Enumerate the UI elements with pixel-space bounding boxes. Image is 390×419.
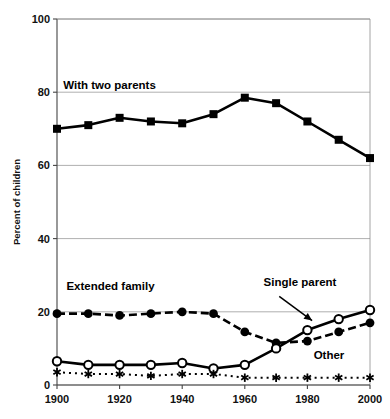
data-point (84, 121, 92, 129)
data-point (209, 309, 218, 318)
data-point (334, 328, 343, 337)
y-axis-title: Percent of children (11, 159, 22, 245)
data-point (178, 307, 187, 316)
x-tick-label-1940: 1940 (170, 393, 194, 405)
x-tick-label-1900: 1900 (45, 393, 69, 405)
data-point (53, 368, 60, 376)
data-point (241, 94, 249, 102)
data-point (147, 361, 155, 369)
data-point (116, 114, 124, 122)
x-tick-label-2000: 2000 (358, 393, 382, 405)
x-tick-label-1960: 1960 (233, 393, 257, 405)
data-point (178, 359, 186, 367)
series-with-two-parents (53, 94, 374, 162)
y-tick-label-80: 80 (38, 86, 50, 98)
single-parent-arrowhead (304, 313, 313, 321)
y-tick-label-60: 60 (38, 159, 50, 171)
x-tick-label-1920: 1920 (107, 393, 131, 405)
series-extended-family (53, 307, 375, 347)
annotation-with-two-parents: With two parents (63, 79, 156, 91)
data-point (335, 373, 342, 381)
data-point (303, 326, 311, 334)
data-point (335, 315, 343, 323)
data-point (115, 311, 124, 320)
data-point (241, 361, 249, 369)
data-point (366, 154, 374, 162)
data-point (210, 110, 218, 118)
data-point (147, 117, 155, 125)
data-point (84, 361, 92, 369)
data-point (178, 119, 186, 127)
x-tick-label-1980: 1980 (295, 393, 319, 405)
data-point (303, 337, 312, 346)
y-tick-label-0: 0 (44, 379, 50, 391)
data-point (84, 309, 93, 318)
data-point (53, 125, 61, 133)
data-point (147, 309, 156, 318)
series-line (57, 98, 370, 158)
data-point (366, 306, 374, 314)
data-point (240, 328, 249, 337)
series-other (53, 368, 373, 382)
percent-of-children-line-chart: 020406080100190019201940196019802000Perc… (0, 0, 390, 419)
y-tick-label-100: 100 (32, 13, 50, 25)
data-point (53, 357, 61, 365)
data-point (241, 373, 248, 381)
data-point (366, 318, 375, 327)
data-point (272, 99, 280, 107)
y-tick-label-40: 40 (38, 233, 50, 245)
annotation-single-parent: Single parent (264, 276, 337, 288)
data-point (53, 309, 62, 318)
chart-container: 020406080100190019201940196019802000Perc… (0, 0, 390, 419)
data-point (335, 136, 343, 144)
y-tick-label-20: 20 (38, 306, 50, 318)
data-point (303, 117, 311, 125)
data-point (366, 373, 373, 381)
data-point (272, 344, 280, 352)
annotation-other: Other (314, 349, 345, 361)
annotation-extended-family: Extended family (66, 280, 155, 292)
data-point (85, 370, 92, 378)
data-point (115, 361, 123, 369)
